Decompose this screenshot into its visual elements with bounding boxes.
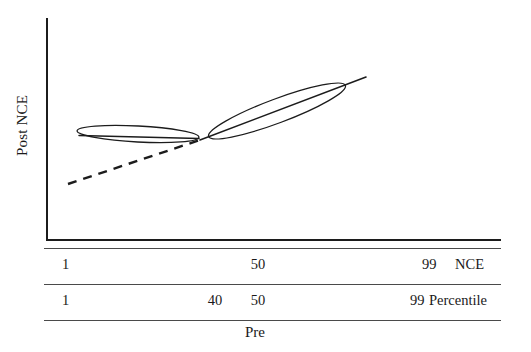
percentile-tick-40: 40 <box>208 293 223 308</box>
scatter-figure: Post NCE 1 50 99 NCE 1 40 50 9 <box>0 0 531 352</box>
x-axis-title: Pre <box>245 324 265 341</box>
percentile-tick-99: 99 <box>410 293 425 308</box>
lower-segment-ellipse <box>77 123 200 145</box>
y-axis-line <box>46 18 48 241</box>
scale-rule-bottom <box>44 320 501 321</box>
percentile-scale-name: Percentile <box>429 293 487 308</box>
lower-segment-regression-line <box>79 136 199 139</box>
percentile-scale-row: 1 40 50 99 Percentile <box>44 284 501 320</box>
nce-tick-1: 1 <box>62 257 69 272</box>
nce-scale-row: 1 50 99 NCE <box>44 248 501 284</box>
percentile-tick-50: 50 <box>251 293 266 308</box>
extrapolated-regression-line <box>68 140 200 184</box>
x-axis-line <box>46 239 501 241</box>
nce-tick-50: 50 <box>251 257 266 272</box>
nce-tick-99: 99 <box>422 257 437 272</box>
y-axis-title: Post NCE <box>14 80 31 172</box>
upper-segment-ellipse <box>204 74 349 148</box>
upper-segment-regression-line <box>200 77 366 140</box>
nce-scale-name: NCE <box>455 257 484 272</box>
percentile-tick-1: 1 <box>62 293 69 308</box>
